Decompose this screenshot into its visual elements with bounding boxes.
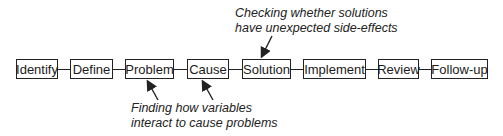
arrow-to-solution xyxy=(262,36,272,56)
annotation-top-line2: have unexpected side-effects xyxy=(235,21,398,36)
annotation-bottom-line2: interact to cause problems xyxy=(131,116,278,131)
annotation-bottom: Finding how variables interact to cause … xyxy=(131,101,278,131)
annotation-top-line1: Checking whether solutions xyxy=(235,6,398,21)
arrow-to-problem xyxy=(148,82,158,100)
annotation-bottom-line1: Finding how variables xyxy=(131,101,278,116)
annotation-top: Checking whether solutions have unexpect… xyxy=(235,6,398,36)
arrow-to-cause xyxy=(203,82,213,100)
